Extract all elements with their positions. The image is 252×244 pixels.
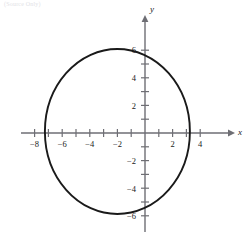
x-axis-arrow-icon	[228, 130, 235, 137]
y-tick-label: 6	[132, 45, 136, 55]
axes-group	[21, 15, 235, 232]
x-tick-label: 4	[198, 139, 203, 149]
y-tick-label: −2	[127, 156, 136, 166]
x-tick-label: −8	[30, 139, 39, 149]
x-tick-labels: −8 −6 −4 −2 2 4	[30, 139, 203, 149]
y-tick-label: 2	[132, 101, 136, 111]
y-tick-label: −4	[127, 184, 137, 194]
coordinate-plane-plot: −8 −6 −4 −2 2 4 6 4 2 −2 −4 −6 x y	[0, 0, 252, 244]
y-axis-arrow-icon	[142, 15, 149, 22]
x-tick-label: −2	[113, 139, 122, 149]
y-tick-label: −6	[127, 211, 136, 221]
x-axis-label: x	[237, 127, 242, 137]
figure-root: (Source Only)	[0, 0, 252, 244]
x-tick-label: −6	[58, 139, 67, 149]
x-tick-label: 2	[170, 139, 174, 149]
y-axis-label: y	[149, 4, 154, 14]
x-tick-label: −4	[85, 139, 95, 149]
y-tick-label: 4	[132, 73, 137, 83]
